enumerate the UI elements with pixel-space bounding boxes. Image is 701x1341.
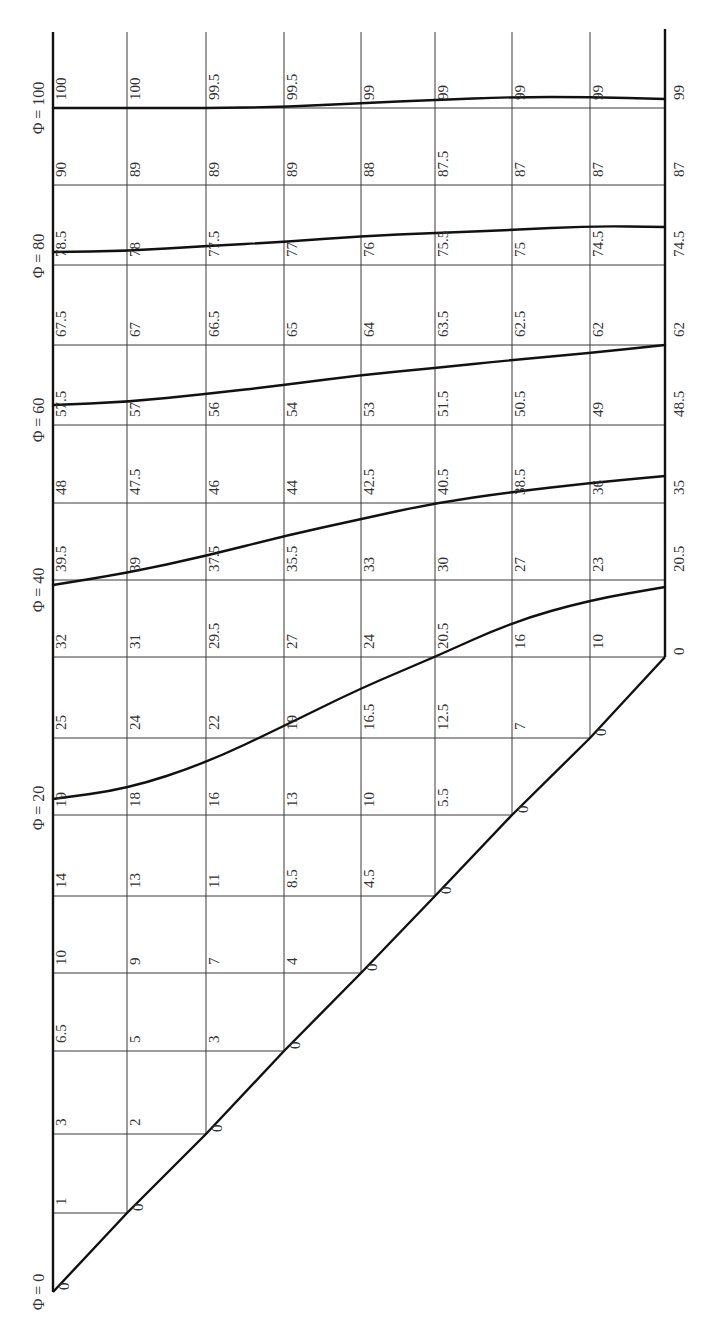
phi-label: Φ = 0: [30, 1274, 47, 1311]
cell-value: 0: [671, 648, 687, 656]
cell-value: 13: [284, 792, 300, 807]
cell-value: 99.5: [206, 74, 222, 100]
cell-value: 0: [593, 729, 609, 737]
cell-value: 3: [53, 1119, 69, 1127]
phi-contour-line: [53, 587, 665, 799]
cell-value: 99.5: [284, 74, 300, 100]
cell-value: 90: [53, 162, 69, 177]
cell-value: 2: [127, 1119, 143, 1127]
cell-value: 33: [361, 557, 377, 572]
cell-value: 7: [512, 722, 528, 730]
phi-label: Φ = 60: [30, 398, 47, 443]
grid-lines: [53, 32, 665, 1213]
cell-value: 0: [515, 806, 531, 814]
cell-value: 67.5: [53, 311, 69, 337]
cell-value: 20.5: [435, 623, 451, 649]
cell-value: 5: [127, 1036, 143, 1044]
cell-value: 67: [127, 322, 143, 338]
cell-value: 62.5: [512, 311, 528, 337]
cell-value: 32: [53, 634, 69, 649]
cell-value: 37.5: [206, 546, 222, 572]
cell-value: 12.5: [435, 704, 451, 730]
cell-value: 100: [127, 78, 143, 101]
cell-value: 99: [590, 85, 606, 100]
cell-value: 24: [127, 715, 143, 731]
phi-axis-labels: Φ = 0Φ = 20Φ = 40Φ = 60Φ = 80Φ = 100: [30, 82, 47, 1311]
cell-value: 65: [284, 322, 300, 337]
cell-value: 35: [671, 480, 687, 495]
cell-value: 77: [284, 242, 300, 258]
cell-value: 44: [284, 480, 300, 496]
cell-value: 99: [361, 85, 377, 100]
cell-value: 48: [53, 480, 69, 495]
cell-value: 87: [590, 162, 606, 178]
cell-value: 13: [127, 873, 143, 888]
cell-value: 0: [209, 1125, 225, 1133]
cell-value: 63.5: [435, 311, 451, 337]
cell-value: 42.5: [361, 469, 377, 495]
phi-contour-curves: [53, 97, 665, 799]
cell-value: 75.5: [435, 231, 451, 257]
cell-value: 99: [512, 85, 528, 100]
phi-label: Φ = 80: [30, 234, 47, 279]
cell-value: 4.5: [361, 869, 377, 888]
cell-value: 0: [438, 887, 454, 895]
cell-value: 74.5: [671, 231, 687, 257]
cell-value: 78.5: [53, 231, 69, 257]
cell-value: 14: [53, 873, 69, 889]
cell-value: 89: [127, 162, 143, 177]
cell-value: 100: [53, 78, 69, 101]
cell-value: 19: [53, 792, 69, 807]
cell-value: 5.5: [435, 788, 451, 807]
cell-value: 35.5: [284, 546, 300, 572]
cell-value: 30: [435, 557, 451, 572]
cell-value: 38.5: [512, 469, 528, 495]
cell-value: 46: [206, 480, 222, 496]
cell-value: 0: [130, 1204, 146, 1212]
cell-value: 99: [671, 85, 687, 100]
cell-value: 64: [361, 322, 377, 338]
cell-value: 18: [127, 792, 143, 807]
cell-value: 76: [361, 242, 377, 258]
cell-value: 7: [206, 957, 222, 965]
cell-value: 48.5: [671, 391, 687, 417]
diagonal-zero-boundary: [53, 657, 665, 1292]
phi-label: Φ = 100: [30, 82, 47, 135]
grid-frame: [53, 29, 665, 1292]
cell-value: 29.5: [206, 623, 222, 649]
cell-value: 57: [127, 402, 143, 418]
cell-value: 1: [53, 1198, 69, 1206]
cell-value: 19: [284, 715, 300, 730]
cell-value: 40.5: [435, 469, 451, 495]
cell-value: 77.5: [206, 231, 222, 257]
cell-value: 50.5: [512, 391, 528, 417]
cell-value: 27: [512, 557, 528, 573]
cell-value: 16: [512, 634, 528, 650]
cell-value: 36: [590, 480, 606, 496]
cell-value: 56: [206, 402, 222, 418]
cell-value: 31: [127, 634, 143, 649]
cell-value: 51.5: [435, 391, 451, 417]
cell-value-labels: 10010099.599.59999999999908989898887.587…: [53, 74, 687, 1290]
phi-contour-line: [53, 226, 665, 252]
cell-value: 62: [671, 322, 687, 337]
cell-value: 74.5: [590, 231, 606, 257]
cell-value: 20.5: [671, 546, 687, 572]
cell-value: 47.5: [127, 469, 143, 495]
cell-value: 10: [53, 950, 69, 965]
cell-value: 99: [435, 85, 451, 100]
cell-value: 66.5: [206, 311, 222, 337]
cell-value: 54: [284, 402, 300, 418]
cell-value: 89: [284, 162, 300, 177]
cell-value: 9: [127, 958, 143, 966]
cell-value: 57.5: [53, 391, 69, 417]
cell-value: 23: [590, 557, 606, 572]
cell-value: 39.5: [53, 546, 69, 572]
cell-value: 24: [361, 634, 377, 650]
cell-value: 10: [361, 792, 377, 807]
cell-value: 87: [512, 162, 528, 178]
cell-value: 89: [206, 162, 222, 177]
cell-value: 0: [364, 964, 380, 972]
cell-value: 62: [590, 322, 606, 337]
cell-value: 53: [361, 402, 377, 417]
